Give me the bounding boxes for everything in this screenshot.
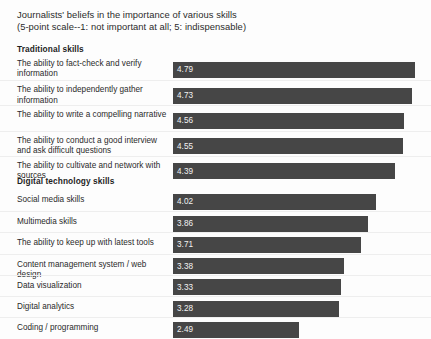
bar-value-label: 4.02 xyxy=(177,197,193,206)
bar-digital-1: 3.86 xyxy=(173,216,368,232)
bar-row-label: The ability to conduct a good interview … xyxy=(17,136,169,157)
bar-row: The ability to independently gather info… xyxy=(0,80,431,105)
bar-track: 4.73 xyxy=(173,81,419,105)
bar-track: 4.39 xyxy=(173,157,419,181)
bar-row: Coding / programming2.49 xyxy=(0,317,431,338)
bar-row-label: Data visualization xyxy=(17,281,169,291)
bar-row-label: Digital analytics xyxy=(17,302,169,312)
chart-subtitle: (5-point scale--1: not important at all;… xyxy=(17,21,417,33)
chart-title: Journalists' beliefs in the importance o… xyxy=(17,9,417,21)
bar-group-digital: Social media skills4.02Multimedia skills… xyxy=(0,190,431,338)
bar-row-label: Social media skills xyxy=(17,195,169,205)
chart-card: Journalists' beliefs in the importance o… xyxy=(0,0,431,339)
bar-value-label: 4.56 xyxy=(177,116,193,125)
bar-value-label: 4.39 xyxy=(177,167,193,176)
bar-value-label: 4.79 xyxy=(177,65,193,74)
bar-row: Social media skills4.02 xyxy=(0,190,431,211)
bar-row-label: The ability to write a compelling narrat… xyxy=(17,110,169,120)
bar-traditional-4: 4.39 xyxy=(173,163,395,179)
bar-row-label: Coding / programming xyxy=(17,323,169,333)
bar-track: 3.33 xyxy=(173,276,419,296)
bar-digital-6: 2.49 xyxy=(173,322,299,338)
bar-track: 3.28 xyxy=(173,297,419,317)
bar-digital-5: 3.28 xyxy=(173,301,339,317)
bar-track: 4.55 xyxy=(173,132,419,156)
bar-traditional-1: 4.73 xyxy=(173,88,412,104)
bar-track: 3.71 xyxy=(173,233,419,253)
section-heading-traditional: Traditional skills xyxy=(17,44,84,54)
bar-value-label: 3.33 xyxy=(177,283,193,292)
bar-row-label: Multimedia skills xyxy=(17,217,169,227)
bar-row: The ability to conduct a good interview … xyxy=(0,131,431,156)
bar-value-label: 3.28 xyxy=(177,304,193,313)
bar-track: 4.56 xyxy=(173,106,419,130)
bar-row: Data visualization3.33 xyxy=(0,275,431,296)
bar-row: Content management system / web design3.… xyxy=(0,254,431,275)
bar-traditional-0: 4.79 xyxy=(173,62,415,78)
bar-group-traditional: The ability to fact-check and verify inf… xyxy=(0,55,431,181)
bar-traditional-3: 4.55 xyxy=(173,138,403,154)
bar-digital-0: 4.02 xyxy=(173,194,376,210)
bar-value-label: 3.86 xyxy=(177,219,193,228)
bar-digital-3: 3.38 xyxy=(173,258,344,274)
bar-track: 3.38 xyxy=(173,255,419,275)
bar-track: 2.49 xyxy=(173,318,419,338)
bar-value-label: 2.49 xyxy=(177,325,193,334)
bar-row: The ability to write a compelling narrat… xyxy=(0,105,431,130)
bar-row-label: The ability to independently gather info… xyxy=(17,85,169,106)
bar-track: 4.02 xyxy=(173,190,419,211)
section-heading-digital: Digital technology skills xyxy=(17,176,114,186)
bar-digital-4: 3.33 xyxy=(173,279,341,295)
bar-value-label: 4.55 xyxy=(177,142,193,151)
bar-value-label: 3.71 xyxy=(177,240,193,249)
bar-row-label: The ability to fact-check and verify inf… xyxy=(17,59,169,80)
bar-row: The ability to fact-check and verify inf… xyxy=(0,55,431,80)
bar-track: 3.86 xyxy=(173,212,419,232)
chart-title-block: Journalists' beliefs in the importance o… xyxy=(17,9,417,34)
bar-value-label: 3.38 xyxy=(177,262,193,271)
bar-track: 4.79 xyxy=(173,55,419,80)
bar-row: The ability to keep up with latest tools… xyxy=(0,232,431,253)
bar-value-label: 4.73 xyxy=(177,91,193,100)
bar-row-label: The ability to keep up with latest tools xyxy=(17,238,169,248)
bar-row: Digital analytics3.28 xyxy=(0,296,431,317)
bar-digital-2: 3.71 xyxy=(173,237,361,253)
bar-row: Multimedia skills3.86 xyxy=(0,211,431,232)
bar-traditional-2: 4.56 xyxy=(173,113,404,129)
